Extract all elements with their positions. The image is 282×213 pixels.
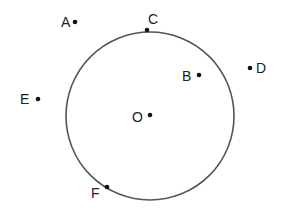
points-layer: ACBDEOF — [20, 11, 266, 201]
point-dot-icon — [197, 73, 202, 78]
point-a: A — [61, 14, 77, 30]
point-label: D — [256, 60, 266, 76]
point-b: B — [182, 68, 201, 84]
point-label: O — [132, 109, 143, 125]
point-label: F — [91, 185, 100, 201]
point-dot-icon — [73, 20, 78, 25]
point-label: B — [182, 68, 191, 84]
point-dot-icon — [105, 185, 110, 190]
point-label: C — [148, 11, 158, 27]
point-dot-icon — [145, 28, 150, 33]
point-label: A — [61, 14, 71, 30]
point-f: F — [91, 185, 109, 201]
point-dot-icon — [148, 113, 153, 118]
point-c: C — [145, 11, 158, 32]
point-e: E — [20, 91, 40, 107]
point-label: E — [20, 91, 29, 107]
point-dot-icon — [36, 97, 41, 102]
point-d: D — [248, 60, 266, 76]
point-dot-icon — [248, 66, 253, 71]
point-o: O — [132, 109, 152, 125]
circle-diagram: ACBDEOF — [0, 0, 282, 213]
